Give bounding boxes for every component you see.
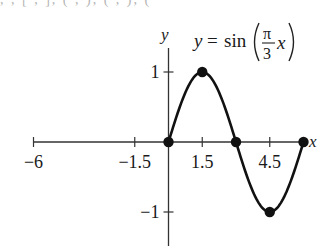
x-axis-label: x	[308, 132, 317, 151]
svg-text:y: y	[192, 30, 203, 51]
data-point	[265, 207, 275, 217]
x-tick-label: −6	[24, 152, 43, 172]
svg-text:sin: sin	[224, 30, 247, 51]
x-tick-label: −1.5	[118, 152, 151, 172]
svg-text:π: π	[263, 25, 271, 42]
data-point	[163, 137, 173, 147]
y-tick-label: 1	[151, 62, 160, 82]
x-tick-label: 1.5	[191, 152, 214, 172]
y-axis-label: y	[159, 25, 169, 44]
data-point	[197, 67, 207, 77]
svg-text:=: =	[207, 30, 218, 51]
x-tick-label: 4.5	[259, 152, 282, 172]
svg-text:3: 3	[263, 45, 271, 62]
sine-graph: −6−1.51.54.5 1−1 y x y = sin π 3 x	[0, 0, 322, 251]
y-tick-label: −1	[140, 202, 159, 222]
data-point	[231, 137, 241, 147]
data-point	[298, 137, 308, 147]
svg-text:x: x	[276, 32, 286, 53]
function-title: y = sin π 3 x	[192, 23, 294, 62]
